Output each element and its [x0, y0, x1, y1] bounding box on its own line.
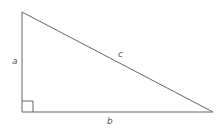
- side-b-label: b: [107, 116, 113, 126]
- right-triangle-diagram: a c b: [0, 0, 224, 134]
- side-a-label: a: [12, 56, 18, 66]
- right-angle-marker: [22, 101, 33, 112]
- side-c-label: c: [118, 49, 123, 59]
- triangle-outline: [22, 12, 213, 112]
